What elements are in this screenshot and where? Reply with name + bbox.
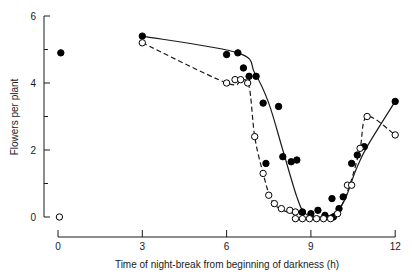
open-data-point (139, 40, 145, 46)
open-data-point (327, 215, 333, 221)
y-axis-title: Flowers per plant (9, 78, 20, 155)
open-data-point (299, 215, 305, 221)
open-data-point (56, 214, 62, 220)
open-data-point (392, 132, 398, 138)
open-data-point (260, 170, 266, 176)
filled-data-point (246, 73, 252, 79)
filled-data-point (240, 65, 246, 71)
open-data-point (223, 80, 229, 86)
x-tick-label: 0 (55, 241, 61, 252)
x-axis: 036912 (55, 230, 401, 252)
solid-curve (142, 36, 395, 217)
open-data-point (244, 80, 250, 86)
filled-data-point (348, 160, 354, 166)
filled-data-point (275, 103, 281, 109)
y-tick-label: 4 (30, 78, 36, 89)
y-axis: 0246 (30, 11, 50, 223)
filled-data-point (340, 194, 346, 200)
x-tick-label: 3 (140, 241, 146, 252)
filled-data-point (263, 160, 269, 166)
open-data-point (278, 205, 284, 211)
open-data-point (357, 145, 363, 151)
filled-data-point (315, 207, 321, 213)
filled-data-point (235, 50, 241, 56)
x-tick-label: 9 (308, 241, 314, 252)
filled-data-point (139, 33, 145, 39)
x-tick-label: 12 (390, 241, 402, 252)
filled-data-point (299, 209, 305, 215)
open-data-point (237, 76, 243, 82)
open-data-point (292, 209, 298, 215)
open-data-point (348, 182, 354, 188)
open-data-point (364, 113, 370, 119)
filled-data-point (354, 152, 360, 158)
open-data-point (266, 192, 272, 198)
open-data-point (320, 215, 326, 221)
filled-data-point (253, 73, 259, 79)
filled-data-point (294, 157, 300, 163)
y-tick-label: 2 (30, 145, 36, 156)
filled-data-point (58, 50, 64, 56)
filled-data-point (329, 195, 335, 201)
open-data-point (334, 210, 340, 216)
open-data-point (313, 215, 319, 221)
filled-data-point (280, 154, 286, 160)
open-data-point (271, 200, 277, 206)
line-chart: 0246 036912 Flowers per plant Time of ni… (0, 0, 412, 279)
filled-data-point (223, 51, 229, 57)
x-tick-label: 6 (224, 241, 230, 252)
y-tick-label: 0 (30, 212, 36, 223)
open-data-point (306, 215, 312, 221)
filled-data-point (392, 98, 398, 104)
open-data-point (292, 215, 298, 221)
series-curves (142, 36, 395, 218)
dashed-curve (142, 43, 395, 218)
y-tick-label: 6 (30, 11, 36, 22)
x-axis-title: Time of night-break from beginning of da… (115, 259, 339, 270)
open-data-point (252, 133, 258, 139)
filled-data-point (260, 100, 266, 106)
